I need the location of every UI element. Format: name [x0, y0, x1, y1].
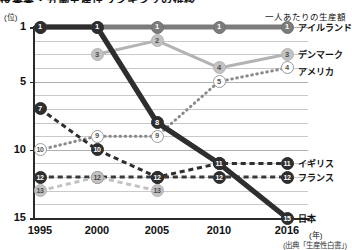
data-point-デンマーク-2016: 3	[281, 48, 294, 61]
legend-label-アイルランド: アイルランド	[298, 21, 352, 34]
data-point-アイルランド-2010: 1	[213, 21, 226, 34]
x-tick-label-2005: 2005	[134, 224, 180, 236]
data-point-アメリカ-2005: 9	[151, 130, 164, 143]
x-tick-label-1995: 1995	[17, 224, 63, 236]
legend-label-フランス: フランス	[298, 171, 334, 184]
legend-label-アメリカ: アメリカ	[298, 65, 334, 78]
data-point-デンマーク-2005: 2	[151, 34, 164, 47]
y-tick-mark-15	[30, 218, 34, 220]
data-point-アメリカ-2010: 5	[213, 75, 226, 88]
data-point-日本-2005: 8	[151, 116, 164, 129]
data-point-日本-1995: 1	[34, 21, 47, 34]
x-tick-label-2000: 2000	[74, 224, 120, 236]
y-tick-mark-1	[30, 27, 34, 29]
data-point-イギリス-2016: 11	[281, 157, 294, 170]
y-tick-mark-5	[30, 82, 34, 84]
data-point-フランス-2010: 12	[213, 171, 226, 184]
data-point-アメリカ-1995: 10	[34, 143, 47, 156]
data-point-アメリカ-2000: 9	[91, 130, 104, 143]
data-point-日本(下段)-2000: 12	[91, 171, 104, 184]
series-line-アメリカ	[40, 68, 287, 150]
y-tick-label-10: 10	[4, 143, 26, 155]
data-point-イギリス-1995: 7	[34, 102, 47, 115]
data-point-日本(下段)-1995: 13	[34, 184, 47, 197]
data-point-デンマーク-2010: 4	[213, 61, 226, 74]
source-note: (出典「生産性白書」)	[283, 239, 347, 250]
x-tick-label-2016: 2016	[264, 224, 310, 236]
data-point-デンマーク-2000: 3	[91, 48, 104, 61]
legend-label-イギリス: イギリス	[298, 157, 334, 170]
data-point-フランス-2016: 12	[281, 171, 294, 184]
data-point-イギリス-2000: 10	[91, 143, 104, 156]
series-line-イギリス	[40, 109, 287, 177]
y-tick-label-5: 5	[4, 75, 26, 87]
data-point-フランス-2005: 12	[151, 171, 164, 184]
data-point-フランス-1995: 12	[34, 171, 47, 184]
series-line-デンマーク	[97, 41, 287, 68]
data-point-アイルランド-2005: 1	[151, 21, 164, 34]
data-point-日本-2010: 11	[213, 157, 226, 170]
data-point-日本(下段)-2005: 13	[151, 184, 164, 197]
legend-label-デンマーク: デンマーク	[298, 48, 343, 61]
y-tick-mark-10	[30, 150, 34, 152]
series-line-日本	[40, 27, 287, 218]
legend-label-日本: 日本	[298, 212, 316, 225]
y-tick-label-15: 15	[4, 211, 26, 223]
data-point-アイルランド-2016: 1	[281, 21, 294, 34]
x-tick-label-2010: 2010	[196, 224, 242, 236]
data-point-日本-2000: 1	[91, 21, 104, 34]
y-tick-label-1: 1	[4, 20, 26, 32]
data-point-アメリカ-2016: 4	[281, 61, 294, 74]
data-point-日本-2016: 15	[281, 212, 294, 225]
